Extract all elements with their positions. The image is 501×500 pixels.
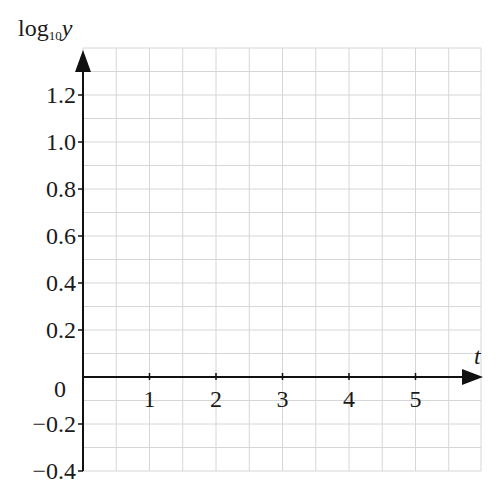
y-tick-label: −0.2: [32, 411, 76, 437]
y-tick-label: −0.4: [32, 458, 76, 484]
y-tick-label: 0.8: [46, 176, 76, 202]
x-tick-label: 1: [144, 386, 156, 412]
y-tick-label: 0.4: [46, 270, 76, 296]
x-axis-arrow-icon: [462, 369, 483, 385]
x-tick-label: 2: [210, 386, 222, 412]
x-tick-label: 4: [343, 386, 355, 412]
y-tick-label: 0.6: [46, 223, 76, 249]
y-axis-arrow-icon: [75, 50, 91, 72]
graph-chart: 12345 1.21.00.80.60.40.20−0.2−0.4 log10y…: [0, 0, 501, 500]
x-tick-label: 5: [410, 386, 422, 412]
y-tick-label: 0.2: [46, 317, 76, 343]
y-tick-labels: 1.21.00.80.60.40.20−0.2−0.4: [32, 82, 76, 484]
y-tick-label: 1.0: [46, 129, 76, 155]
x-tick-labels: 12345: [144, 386, 422, 412]
y-tick-label: 0: [54, 376, 66, 402]
x-tick-label: 3: [277, 386, 289, 412]
y-tick-label: 1.2: [46, 82, 76, 108]
y-axis-label: log10y: [18, 15, 73, 43]
